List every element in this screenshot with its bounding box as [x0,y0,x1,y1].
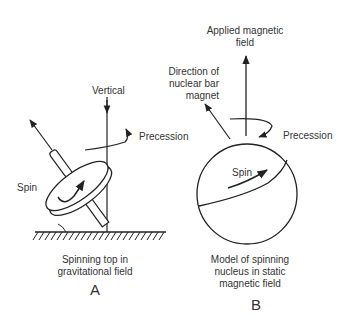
label-direction-magnet: Direction of nuclear bar magnet [157,66,219,102]
applied-field-line1: Applied magnetic [200,25,290,37]
panel-a-spinning-top [30,97,166,240]
direction-line1: Direction of [157,66,219,78]
caption-a-line1: Spinning top in [40,254,150,266]
label-spin-b: Spin [232,167,252,179]
caption-b-line2: nucleus in static [200,266,300,278]
panel-letter-a: A [85,282,105,298]
panel-letter-b: B [246,297,266,313]
label-applied-field: Applied magnetic field [200,25,290,49]
precession-arrow-icon [85,129,128,150]
caption-b-line1: Model of spinning [200,254,300,266]
applied-field-line2: field [200,37,290,49]
label-precession-b: Precession [283,130,332,142]
caption-b-line3: magnetic field [200,278,300,290]
spin-axis-arrow-icon [30,120,52,150]
nucleus-sphere-icon [197,144,297,244]
direction-line2: nuclear bar [157,78,219,90]
caption-a: Spinning top in gravitational field [40,254,150,278]
ground-hatch-icon [33,232,166,240]
direction-line3: magnet [157,90,219,102]
nuclear-magnet-arrow-icon [205,104,230,139]
precession-arrow-icon [230,119,272,137]
caption-a-line2: gravitational field [40,266,150,278]
label-precession-a: Precession [139,131,188,143]
label-spin-a: Spin [17,182,37,194]
caption-b: Model of spinning nucleus in static magn… [200,254,300,290]
label-vertical: Vertical [92,85,125,97]
